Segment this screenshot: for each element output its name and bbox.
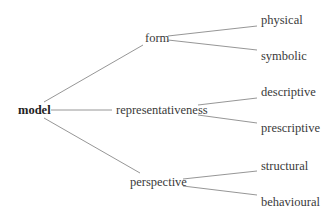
- edge-perspective-structural: [183, 171, 257, 179]
- edge-perspective-behavioural: [183, 186, 257, 195]
- node-branch-perspective: perspective: [130, 175, 187, 189]
- edge-form-symbolic: [168, 40, 257, 50]
- node-branch-representativeness: representativeness: [116, 103, 208, 117]
- node-root: model: [18, 103, 51, 117]
- node-leaf-symbolic: symbolic: [261, 49, 307, 63]
- node-leaf-structural: structural: [261, 159, 308, 173]
- edge-model-form: [44, 45, 143, 102]
- taxonomy-diagram: model form representativeness perspectiv…: [0, 0, 327, 214]
- node-branch-form: form: [145, 31, 169, 45]
- edge-form-physical: [168, 26, 257, 36]
- node-leaf-physical: physical: [261, 13, 303, 27]
- node-leaf-prescriptive: prescriptive: [261, 121, 320, 135]
- node-leaf-descriptive: descriptive: [261, 85, 316, 99]
- edge-model-perspective: [44, 118, 140, 173]
- node-leaf-behavioural: behavioural: [261, 195, 320, 209]
